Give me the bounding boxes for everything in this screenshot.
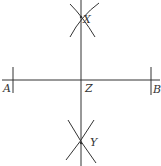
label-a: A bbox=[3, 83, 11, 94]
point-x bbox=[80, 16, 82, 18]
diagram-canvas: A B Z X Y bbox=[0, 0, 161, 166]
label-y: Y bbox=[90, 137, 97, 148]
label-z: Z bbox=[85, 83, 93, 94]
label-x: X bbox=[83, 14, 91, 25]
label-b: B bbox=[153, 84, 161, 95]
construction-figure bbox=[0, 0, 161, 166]
point-y bbox=[80, 142, 82, 144]
